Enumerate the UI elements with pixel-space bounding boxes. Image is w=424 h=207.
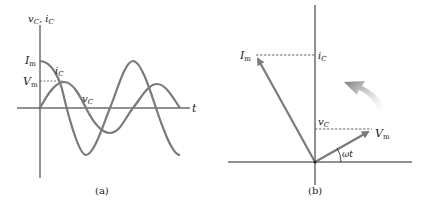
panel-a-caption: (a) xyxy=(95,185,109,196)
voltage-phasor-label: Vm xyxy=(375,127,390,141)
angle-label: ωt xyxy=(342,149,353,159)
capacitor-ac-diagram: vC, iC Im Vm iC vC t (a) xyxy=(0,0,424,207)
voltage-projection-label: vC xyxy=(318,116,330,129)
current-phasor-label: Im xyxy=(239,49,251,63)
voltage-peak-label: Vm xyxy=(23,75,38,89)
t-axis-label: t xyxy=(192,102,197,115)
panel-b-caption: (b) xyxy=(308,185,322,196)
current-phasor-arrow xyxy=(258,59,315,162)
current-projection-label: iC xyxy=(318,50,327,63)
panel-a-waveform-plot: vC, iC Im Vm iC vC t (a) xyxy=(17,13,197,196)
rotation-direction-icon xyxy=(344,81,385,114)
current-peak-label: Im xyxy=(24,54,36,68)
panel-b-phasor-diagram: Im iC vC Vm ωt (b) xyxy=(228,5,412,196)
y-axis-label: vC, iC xyxy=(28,13,55,26)
origin-dot xyxy=(314,161,317,164)
